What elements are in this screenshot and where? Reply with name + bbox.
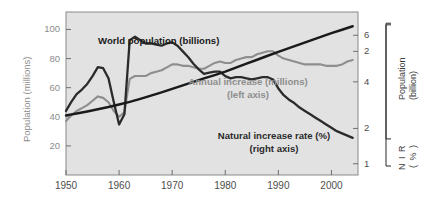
- left-tick-40: 40: [34, 112, 60, 122]
- left-tick-20: 20: [34, 141, 60, 151]
- right-upper-tick-2: 2: [364, 123, 378, 133]
- annotation-annual-increase-line1: Annual increase (millions): [163, 77, 333, 87]
- left-tick-60: 60: [34, 83, 60, 93]
- left-tick-80: 80: [34, 54, 60, 64]
- left-axis-title: Population (millions): [22, 56, 32, 142]
- x-tick-1980: 1980: [205, 181, 245, 191]
- annotation-world-population: World population (billions): [98, 36, 219, 46]
- right-axis-lower-title-line2: ( % ): [409, 144, 418, 168]
- x-tick-1960: 1960: [99, 181, 139, 191]
- x-tick-2000: 2000: [311, 181, 351, 191]
- right-lower-tick-2: 2: [364, 46, 378, 56]
- right-upper-tick-6: 6: [364, 30, 378, 40]
- right-axis-lower-title-line1: N I R: [398, 144, 407, 170]
- right-upper-tick-4: 4: [364, 77, 378, 87]
- annotation-annual-increase-line2: (left axis): [163, 90, 333, 100]
- right-lower-tick-1: 1: [364, 159, 378, 169]
- annotation-natural-increase-rate-line1: Natural increase rate (%): [194, 131, 354, 141]
- x-tick-1990: 1990: [258, 181, 298, 191]
- left-tick-100: 100: [34, 24, 60, 34]
- right-axis-upper-title-line1: Population: [398, 57, 407, 100]
- right-axis-upper-title-line2: (billion): [409, 71, 418, 100]
- annotation-natural-increase-rate-line2: (right axis): [194, 144, 354, 154]
- x-tick-1970: 1970: [152, 181, 192, 191]
- x-tick-1950: 1950: [46, 181, 86, 191]
